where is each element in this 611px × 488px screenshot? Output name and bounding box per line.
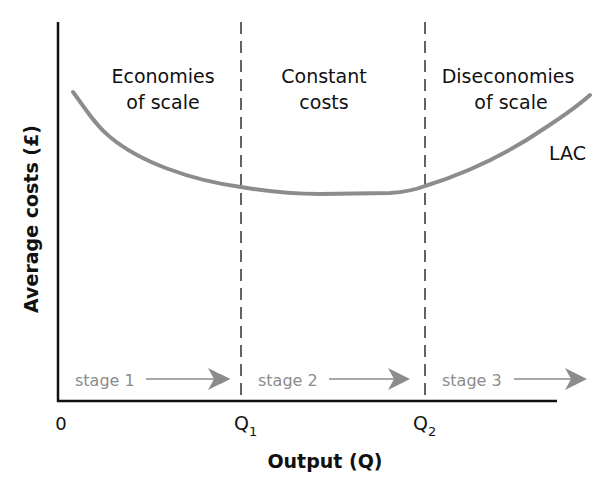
origin-label: 0: [55, 413, 66, 434]
region3-label-line2: of scale: [474, 91, 547, 113]
region2-label-line1: Constant: [281, 65, 366, 87]
region1-label-line1: Economies: [111, 65, 214, 87]
region2-label-line2: costs: [299, 91, 348, 113]
stage1-label: stage 1: [75, 371, 135, 390]
q2-label: Q2: [413, 412, 436, 439]
lac-diagram: Economies of scale Constant costs Diseco…: [0, 0, 611, 488]
stage2-label: stage 2: [258, 371, 318, 390]
x-axis-title: Output (Q): [267, 450, 382, 472]
y-axis-title: Average costs (£): [20, 125, 42, 313]
q1-label: Q1: [234, 412, 257, 439]
lac-label: LAC: [549, 142, 586, 164]
region3-label-line1: Diseconomies: [442, 65, 575, 87]
stage3-label: stage 3: [442, 371, 502, 390]
region1-label-line2: of scale: [126, 91, 199, 113]
